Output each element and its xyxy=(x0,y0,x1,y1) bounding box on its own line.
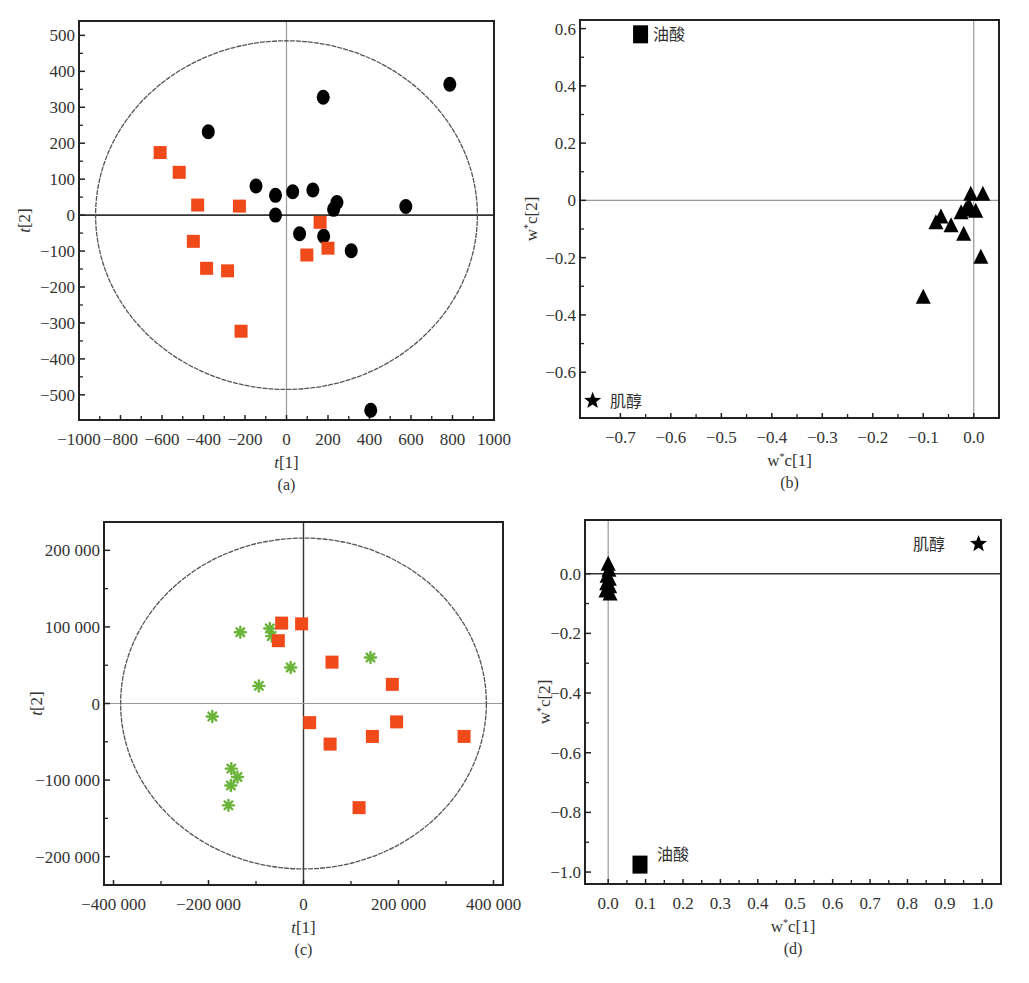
panel-d-loading-plot: 0.00.10.20.30.40.50.60.70.80.91.00.0−0.2… xyxy=(530,490,1029,983)
y-tick-label: 100 xyxy=(50,170,76,189)
x-tick-label: 0.5 xyxy=(785,894,806,913)
chart-d: 0.00.10.20.30.40.50.60.70.80.91.00.0−0.2… xyxy=(530,490,1029,983)
marker-circle xyxy=(306,182,319,197)
panel-caption: (d) xyxy=(784,940,803,958)
series-square xyxy=(154,146,335,338)
y-tick-label: 0.6 xyxy=(555,20,576,39)
y-axis-label: t[2] xyxy=(27,691,46,716)
y-tick-label: 0 xyxy=(568,191,577,210)
marker-triangle xyxy=(916,289,931,304)
marker-square xyxy=(233,200,246,213)
x-tick-label: −0.3 xyxy=(807,428,838,447)
x-tick-label: 0.0 xyxy=(598,894,619,913)
marker-circle xyxy=(364,403,377,418)
x-tick-label: −400 xyxy=(186,430,221,449)
marker-square xyxy=(458,730,471,743)
y-tick-label: −200 xyxy=(40,278,75,297)
marker-square xyxy=(326,656,339,669)
marker-square xyxy=(173,166,186,179)
x-tick-label: 0 xyxy=(299,895,308,914)
marker-square xyxy=(322,242,335,255)
marker-circle xyxy=(443,77,456,92)
marker-square xyxy=(275,617,288,630)
y-tick-label: −0.6 xyxy=(550,744,581,763)
x-tick-label: −600 xyxy=(144,430,179,449)
x-tick-label: −800 xyxy=(103,430,138,449)
series-square xyxy=(633,25,648,43)
panel-caption: (c) xyxy=(295,941,313,959)
marker-circle xyxy=(202,124,215,139)
chart-b: −0.7−0.6−0.5−0.4−0.3−0.2−0.10.00.60.40.2… xyxy=(515,0,1029,490)
marker-circle xyxy=(399,199,412,214)
x-tick-label: −0.1 xyxy=(908,428,939,447)
marker-star xyxy=(285,662,296,673)
y-tick-label: 0 xyxy=(92,695,101,714)
y-tick-label: −0.2 xyxy=(545,249,576,268)
marker-circle xyxy=(317,90,330,105)
x-tick-label: −0.4 xyxy=(756,428,787,447)
marker-star xyxy=(232,772,243,783)
marker-circle xyxy=(327,202,340,217)
x-axis-label: t[1] xyxy=(274,453,299,472)
marker-star xyxy=(365,652,376,663)
x-tick-label: 0.7 xyxy=(859,894,881,913)
y-tick-label: 300 xyxy=(50,98,76,117)
marker-square xyxy=(200,262,213,275)
y-axis-label: w*c[2] xyxy=(535,680,554,725)
y-tick-label: 200 000 xyxy=(45,541,100,560)
y-tick-label: 200 xyxy=(50,134,76,153)
x-tick-label: 0.1 xyxy=(635,894,656,913)
marker-square xyxy=(221,264,234,277)
x-tick-label: −0.2 xyxy=(857,428,888,447)
variable-annotation: 肌醇 xyxy=(610,392,642,411)
marker-square xyxy=(390,715,403,728)
marker-square xyxy=(633,25,648,43)
x-axis-label: w*c[1] xyxy=(767,451,812,470)
x-tick-label: −400 000 xyxy=(81,895,146,914)
marker-square xyxy=(295,617,308,630)
marker-star xyxy=(584,392,601,408)
x-tick-label: 200 xyxy=(315,430,341,449)
y-tick-label: −200 000 xyxy=(35,848,100,867)
y-axis-ticks: 200 000100 0000−100 000−200 000 xyxy=(35,541,110,866)
x-tick-label: −0.5 xyxy=(706,428,737,447)
x-tick-label: 200 000 xyxy=(371,895,426,914)
x-tick-label: 0.8 xyxy=(897,894,918,913)
y-tick-label: −300 xyxy=(40,314,75,333)
x-tick-label: 0.3 xyxy=(710,894,731,913)
variable-annotation: 肌醇 xyxy=(913,535,945,554)
y-tick-label: 0.4 xyxy=(555,77,577,96)
marker-square xyxy=(632,856,647,874)
marker-circle xyxy=(293,226,306,241)
x-tick-label: 800 xyxy=(440,430,466,449)
y-tick-label: −1.0 xyxy=(550,863,581,882)
marker-star xyxy=(264,623,275,634)
x-tick-label: 1000 xyxy=(477,430,511,449)
chart-c: −400 000−200 0000200 000400 000200 00010… xyxy=(0,490,530,983)
x-tick-label: 0.6 xyxy=(822,894,843,913)
marker-star xyxy=(253,680,264,691)
y-tick-label: −400 xyxy=(40,350,75,369)
y-tick-label: 500 xyxy=(50,26,76,45)
y-tick-label: 0.0 xyxy=(560,565,581,584)
series-square xyxy=(632,856,647,874)
marker-triangle xyxy=(956,226,971,241)
y-axis-label: w*c[2] xyxy=(522,197,541,242)
marker-square xyxy=(187,235,200,248)
marker-circle xyxy=(286,184,299,199)
marker-circle xyxy=(317,229,330,244)
marker-triangle xyxy=(975,186,990,201)
y-tick-label: 400 xyxy=(50,62,76,81)
chart-a: −1000−800−600−400−2000200400600800100050… xyxy=(0,0,515,490)
y-axis-label: t[2] xyxy=(15,208,34,233)
series-triangle xyxy=(916,186,991,304)
marker-star xyxy=(970,535,987,551)
x-tick-label: 1.0 xyxy=(972,894,993,913)
x-tick-label: 0.2 xyxy=(672,894,693,913)
panel-c-score-plot: −400 000−200 0000200 000400 000200 00010… xyxy=(0,490,530,983)
y-tick-label: −0.8 xyxy=(550,803,581,822)
y-tick-label: −0.4 xyxy=(545,306,576,325)
marker-square xyxy=(314,216,327,229)
marker-star xyxy=(225,780,236,791)
marker-circle xyxy=(269,188,282,203)
